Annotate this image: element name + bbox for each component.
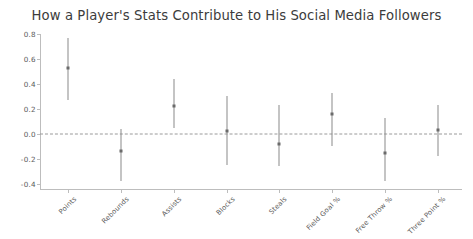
x-tick-label: Field Goal % [305,195,342,232]
errorbar [384,118,385,182]
x-tick-label: Assists [160,195,183,218]
y-tick-label: 0.2 [2,104,36,113]
x-tick-label: Blocks [214,195,236,217]
data-point-marker [67,66,70,69]
errorbar [121,129,122,181]
y-axis-spine [40,34,41,190]
errorbar [173,79,174,128]
x-tick-mark [121,190,122,193]
x-tick-label: Three Point % [406,195,447,236]
x-tick-label: Points [57,195,78,216]
y-tick-mark [37,59,40,60]
chart-title: How a Player's Stats Contribute to His S… [0,8,473,23]
y-tick-label: -0.4 [2,179,36,188]
data-point-marker [436,129,439,132]
y-tick-label: 0.6 [2,54,36,63]
x-tick-mark [438,190,439,193]
data-point-marker [331,112,334,115]
chart-figure: How a Player's Stats Contribute to His S… [0,0,473,239]
data-point-marker [225,130,228,133]
plot-area: 0.80.60.40.20.0-0.2-0.4 PointsReboundsAs… [40,34,462,190]
data-point-marker [172,105,175,108]
data-point-marker [120,150,123,153]
x-tick-mark [68,190,69,193]
data-point-marker [278,142,281,145]
y-tick-label: 0.8 [2,30,36,39]
zero-line [40,133,462,134]
y-tick-label: -0.2 [2,154,36,163]
x-tick-mark [227,190,228,193]
x-tick-label: Free Throw % [355,195,395,235]
x-axis-spine [40,189,462,190]
y-tick-mark [37,184,40,185]
x-tick-mark [385,190,386,193]
y-tick-mark [37,84,40,85]
x-tick-mark [332,190,333,193]
x-tick-label: Rebounds [100,195,131,226]
data-point-marker [383,151,386,154]
y-tick-mark [37,34,40,35]
errorbar [279,105,280,166]
errorbar [332,93,333,147]
x-tick-mark [279,190,280,193]
x-tick-label: Steals [268,195,289,216]
y-tick-mark [37,109,40,110]
y-tick-mark [37,159,40,160]
x-tick-mark [174,190,175,193]
y-tick-label: 0.4 [2,79,36,88]
y-tick-label: 0.0 [2,129,36,138]
